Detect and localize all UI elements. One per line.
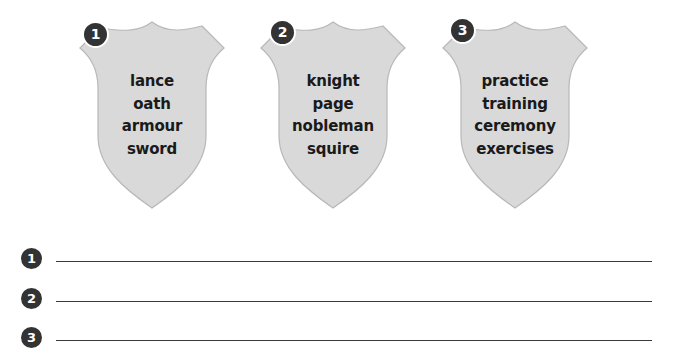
number-badge: 2 xyxy=(21,288,42,309)
answer-row-1: 1 xyxy=(0,248,674,278)
answer-line-2[interactable] xyxy=(56,301,652,302)
number-badge: 1 xyxy=(21,248,42,269)
shield-word-list: lance oath armour sword xyxy=(78,70,226,160)
shield-word: nobleman xyxy=(259,115,407,138)
answer-row-3: 3 xyxy=(0,327,674,357)
shield-word: page xyxy=(259,93,407,116)
answer-line-3[interactable] xyxy=(56,340,652,341)
number-badge: 3 xyxy=(21,327,42,348)
number-badge: 1 xyxy=(82,21,109,48)
number-badge: 2 xyxy=(269,19,296,46)
shield-word: sword xyxy=(78,138,226,161)
answer-line-1[interactable] xyxy=(56,261,652,262)
shield-word: training xyxy=(441,93,589,116)
shield-word: lance xyxy=(78,70,226,93)
shield-word: knight xyxy=(259,70,407,93)
shield-word: ceremony xyxy=(441,115,589,138)
number-badge: 3 xyxy=(449,17,476,44)
shield-word: armour xyxy=(78,115,226,138)
shield-word-list: knight page nobleman squire xyxy=(259,70,407,160)
shield-word: squire xyxy=(259,138,407,161)
shield-2: knight page nobleman squire xyxy=(259,18,407,210)
shield-word: oath xyxy=(78,93,226,116)
shield-3: practice training ceremony exercises xyxy=(441,18,589,210)
shield-word: practice xyxy=(441,70,589,93)
shield-word: exercises xyxy=(441,138,589,161)
shield-word-list: practice training ceremony exercises xyxy=(441,70,589,160)
answer-row-2: 2 xyxy=(0,288,674,318)
